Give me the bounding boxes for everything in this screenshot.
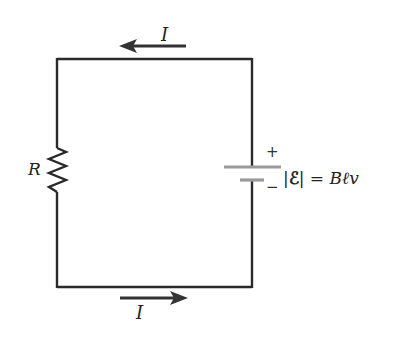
emf-equals: = — [304, 168, 329, 188]
current-arrow-left-icon — [119, 39, 186, 53]
emf-B: B — [330, 168, 343, 188]
resistor-icon — [49, 148, 66, 192]
battery-positive-sign: + — [266, 145, 279, 160]
emf-v: v — [349, 168, 359, 188]
battery-negative-sign: − — [266, 180, 279, 195]
current-label-bottom: I — [136, 304, 143, 322]
emf-equation: |ℰ| = Bℓv — [283, 170, 359, 187]
current-label-top: I — [161, 26, 168, 44]
current-arrow-right-icon — [120, 291, 188, 305]
resistor-label: R — [28, 161, 41, 178]
emf-symbol: ℰ — [289, 168, 299, 188]
